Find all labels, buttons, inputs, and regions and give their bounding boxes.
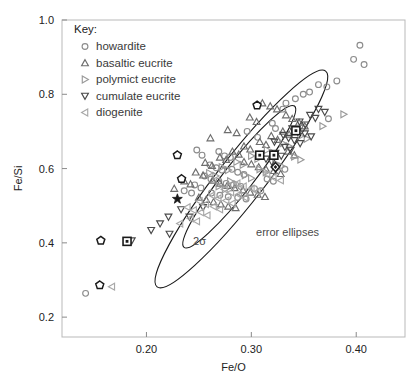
marker-square — [123, 237, 131, 245]
marker-square — [256, 151, 264, 159]
x-axis-label: Fe/O — [221, 361, 246, 373]
annotation-text: error ellipses — [256, 226, 319, 238]
marker-pentagon — [253, 101, 261, 109]
marker-pentagon — [96, 281, 104, 289]
marker-square — [292, 127, 300, 135]
pentagon-marker — [253, 101, 261, 109]
annotation-text: 2σ — [193, 235, 206, 247]
pentagon-marker — [173, 151, 181, 159]
y-tick-label: 0.6 — [39, 163, 54, 175]
key-item-label-howardite: howardite — [96, 40, 146, 52]
pentagon-marker — [97, 236, 105, 244]
pentagon-marker — [96, 281, 104, 289]
marker-square — [270, 151, 278, 159]
marker-pentagon — [178, 175, 186, 183]
key-item-label-diogenite: diogenite — [96, 106, 143, 118]
y-axis-label: Fe/Si — [12, 166, 24, 192]
y-tick-label: 1.0 — [39, 14, 54, 26]
marker-pentagon — [173, 151, 181, 159]
key-item-label-cumulate-eucrite: cumulate eucrite — [96, 90, 180, 102]
key-item-label-basaltic-eucrite: basaltic eucrite — [96, 57, 173, 69]
y-tick-label: 0.2 — [39, 311, 54, 323]
square-core — [295, 129, 298, 132]
key-title: Key: — [74, 23, 97, 35]
square-core — [126, 240, 129, 243]
y-tick-label: 0.4 — [39, 237, 54, 249]
chart-figure: 0.200.300.400.20.40.60.81.0Fe/OFe/Si 2σe… — [0, 0, 412, 380]
square-core — [272, 154, 275, 157]
marker-pentagon — [97, 236, 105, 244]
x-tick-label: 0.20 — [136, 343, 157, 355]
key-item-label-polymict-eucrite: polymict eucrite — [96, 73, 176, 85]
scatter-plot: 0.200.300.400.20.40.60.81.0Fe/OFe/Si 2σe… — [0, 0, 412, 380]
y-tick-label: 0.8 — [39, 88, 54, 100]
x-tick-label: 0.30 — [241, 343, 262, 355]
square-core — [258, 154, 261, 157]
x-tick-label: 0.40 — [346, 343, 367, 355]
pentagon-marker — [178, 175, 186, 183]
